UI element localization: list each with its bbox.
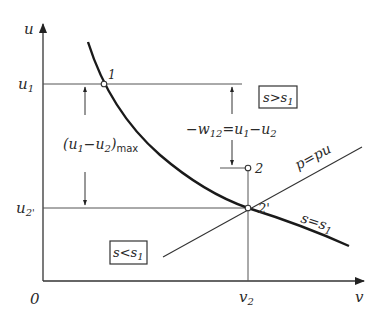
point-2-marker (245, 165, 251, 171)
isobar-label: p=pu (292, 140, 334, 172)
point-2p-label: 2' (257, 201, 270, 216)
point-2p-marker (245, 205, 251, 211)
v2-tick-label: v2 (239, 288, 254, 307)
max-diff-label: (u1−u2)max (63, 136, 138, 154)
u-v-diagram: u v 0 u1 u2' v2 (u1−u2)max −w12=u1−u2 1 … (0, 0, 381, 319)
u2p-tick-label: u2' (16, 199, 35, 218)
point-1-label: 1 (108, 68, 116, 82)
u1-tick-label: u1 (18, 75, 34, 94)
point-2-label: 2 (254, 161, 263, 176)
work-label: −w12=u1−u2 (186, 121, 277, 139)
v-axis-label: v (355, 288, 364, 306)
origin-label: 0 (30, 290, 40, 308)
u-axis-label: u (24, 20, 34, 38)
point-1-marker (101, 81, 107, 87)
